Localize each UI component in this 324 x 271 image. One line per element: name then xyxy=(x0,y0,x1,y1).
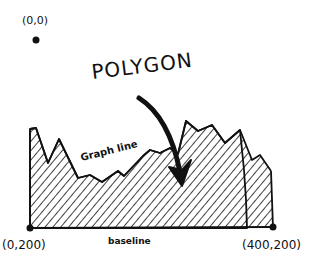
bottom-right-point xyxy=(270,224,277,231)
bottom-left-label: (0,200) xyxy=(2,238,46,252)
bottom-left-point xyxy=(27,225,34,232)
diagram-canvas xyxy=(0,0,324,271)
bottom-right-label: (400,200) xyxy=(242,238,301,252)
origin-point xyxy=(33,37,40,44)
baseline-line xyxy=(30,227,273,228)
origin-label: (0,0) xyxy=(22,14,48,27)
baseline-label: baseline xyxy=(108,236,151,246)
polygon-shape xyxy=(30,121,273,228)
